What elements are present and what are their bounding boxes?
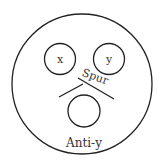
well-y-label: y [105,53,113,66]
well-anti-y-circle [68,95,100,127]
immunodiffusion-diagram: x y Spur Anti-y [0,0,161,161]
well-anti-y: Anti-y [65,95,102,150]
well-anti-y-label: Anti-y [65,136,102,150]
well-x-label: x [57,53,64,66]
spur-label: Spur [80,66,110,88]
well-x: x [45,44,76,75]
